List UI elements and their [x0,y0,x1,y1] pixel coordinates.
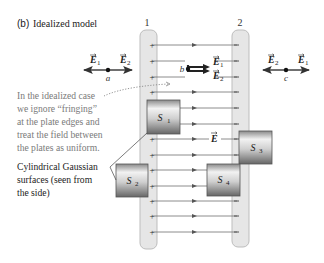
panel-label: (b) [17,18,29,29]
vector-e2-label-a: E [119,54,127,65]
point-b: b E 1 E 2 [180,56,224,83]
plate-2-label: 2 [238,17,243,28]
vector-e1-label-b: E [212,56,220,67]
gaussian-surface-s4: S 4 [207,164,240,196]
svg-text:+: + [149,211,154,221]
vector-e1-label-c: E [297,54,305,65]
vector-e1-sub-c: 1 [305,59,309,67]
vector-e1-label-a: E [89,54,97,65]
surface-s1-label: S [158,112,163,123]
svg-text:+: + [149,181,154,191]
gaussian-surface-s2: S 2 [116,164,148,197]
annotation-line: surfaces (seen from [17,174,93,186]
surface-s2-label: S [127,175,132,186]
svg-text:+: + [149,72,154,82]
vector-e1-sub-b: 1 [220,61,224,69]
surface-s1-sub: 1 [167,117,171,125]
point-c-dot [284,68,288,72]
svg-text:+: + [149,227,154,237]
point-a-dot [106,68,110,72]
idealized-leader-line [104,84,168,96]
point-b-label: b [180,64,185,74]
vector-e1-sub-a: 1 [97,59,101,67]
vector-e2-sub-b: 2 [220,75,224,83]
surface-s2-sub: 2 [135,180,139,188]
vector-e2-sub-a: 2 [127,59,131,67]
diagram-canvas: + + + + + + + + + + + + + 1 2 (b) Ideali… [0,0,324,263]
gaussian-surface-s3: S 3 [239,131,272,164]
point-c: c E 2 E 1 [263,54,309,83]
surface-s4-sub: 4 [226,179,230,187]
field-e-label: E [210,133,218,144]
annotation-line: we ignore “fringing” [17,103,97,114]
vector-e2-sub-c: 2 [275,59,279,67]
svg-text:+: + [149,87,154,97]
surface-s3-sub: 3 [259,147,263,155]
vector-e2-label-b: E [212,70,220,81]
vector-e2-label-c: E [267,54,275,65]
point-a: a E 1 E 2 [84,54,132,83]
annotation-line: In the idealized case [17,90,95,101]
surface-s4-label: S [218,174,223,185]
point-b-dot [186,67,190,71]
annotation-line: the plates as uniform. [17,142,100,153]
plate-1-label: 1 [145,17,150,28]
svg-text:+: + [149,150,154,160]
svg-text:+: + [149,134,154,144]
annotation-line: treat the field between [17,129,103,140]
point-a-label: a [106,73,111,83]
point-c-label: c [284,73,288,83]
svg-text:+: + [149,165,154,175]
gaussian-annotation: Cylindrical Gaussian surfaces (seen from… [17,161,98,199]
svg-text:+: + [149,40,154,50]
field-e-label-group: E [209,131,221,144]
annotation-line: at the plate edges and [17,116,100,127]
annotation-line: the side) [17,187,50,199]
svg-text:+: + [149,196,154,206]
idealized-annotation: In the idealized case we ignore “fringin… [17,90,103,153]
figure-title: Idealized model [33,18,97,29]
gaussian-leader-s2 [110,167,116,180]
annotation-line: Cylindrical Gaussian [17,161,98,172]
surface-s3-label: S [251,142,256,153]
gaussian-surface-s1: S 1 [147,100,180,134]
svg-text:+: + [149,56,154,66]
